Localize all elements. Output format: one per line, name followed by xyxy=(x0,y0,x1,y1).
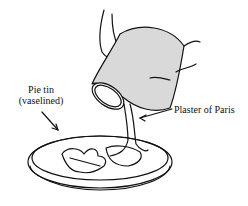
pie-tin-arrow xyxy=(42,112,58,130)
plaster-stream-icon xyxy=(110,104,148,156)
plaster-label: Plaster of Paris xyxy=(174,104,235,115)
pie-tin-label-line2: (vaselined) xyxy=(18,95,64,106)
pie-tin-label-line1: Pie tin xyxy=(18,84,64,95)
illustration: Pie tin (vaselined) Plaster of Paris xyxy=(0,0,248,206)
pie-tin-label: Pie tin (vaselined) xyxy=(18,84,64,106)
leaf-icon xyxy=(62,149,106,173)
